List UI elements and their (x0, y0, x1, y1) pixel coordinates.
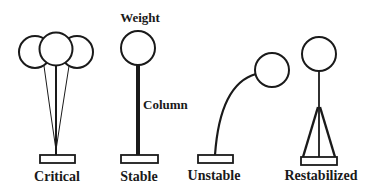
figure-stable: Weight Column Stable (120, 10, 188, 184)
unstable-label: Unstable (188, 168, 241, 183)
critical-base (40, 155, 75, 163)
unstable-base (198, 155, 233, 163)
unstable-buckled-column (215, 74, 256, 155)
stable-base (121, 155, 158, 163)
figure-restabilized: Restabilized (284, 37, 357, 183)
critical-left-sway-line (44, 66, 56, 150)
column-annotation: Column (143, 97, 189, 112)
weight-annotation: Weight (120, 10, 160, 25)
restabilized-weight-circle (302, 37, 336, 71)
critical-right-sway-line (56, 66, 69, 150)
figure-unstable: Unstable (188, 53, 289, 183)
critical-label: Critical (34, 169, 80, 184)
column-stability-diagram: Critical Weight Column Stable Unstable R… (0, 0, 377, 189)
unstable-weight-circle (255, 53, 289, 87)
figure-critical: Critical (19, 33, 93, 185)
restabilized-left-brace (303, 107, 318, 157)
restabilized-label: Restabilized (284, 168, 357, 183)
critical-center-weight-circle (40, 33, 73, 66)
restabilized-base (301, 157, 337, 165)
stable-weight-circle (121, 31, 155, 65)
stable-label: Stable (120, 169, 157, 184)
restabilized-right-brace (320, 107, 335, 157)
